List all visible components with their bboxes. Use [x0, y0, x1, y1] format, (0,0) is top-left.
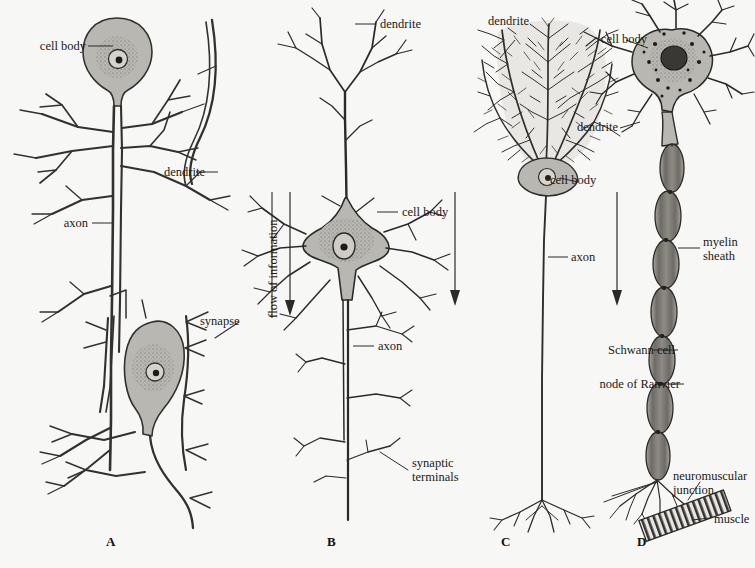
myelin-segment-7 — [646, 432, 670, 480]
label-c-axon: axon — [571, 250, 595, 264]
nucleus-d — [661, 46, 687, 70]
label-a-dendrite: dendrite — [164, 165, 205, 179]
panel-letter-c: C — [501, 534, 510, 550]
neuron-diagram-svg — [0, 0, 755, 568]
label-d-neuromuscular-junction: neuromuscular junction — [673, 469, 747, 497]
label-flow-of-information: flow of information — [266, 219, 281, 318]
label-a-cell-body: cell body — [10, 39, 86, 53]
nucleolus-a-upper — [116, 57, 123, 64]
label-b-dendrite: dendrite — [380, 17, 421, 31]
label-d-muscle: muscle — [714, 512, 749, 526]
label-b-cell-body: cell body — [402, 205, 448, 219]
nucleolus-a-lower — [153, 370, 159, 376]
label-b-axon: axon — [378, 339, 402, 353]
myelin-segment-3 — [653, 240, 679, 288]
myelin-segment-2 — [655, 191, 681, 241]
label-a-axon: axon — [24, 216, 88, 230]
label-b-synaptic-line1: synaptic — [412, 456, 454, 470]
axon-b-edge — [343, 300, 344, 440]
label-d-nmj-line1: neuromuscular — [673, 469, 747, 483]
panel-letter-d: D — [637, 534, 646, 550]
label-d-myelin-line2: sheath — [703, 249, 735, 263]
panel-letter-b: B — [327, 534, 336, 550]
myelin-segment-1 — [660, 144, 684, 192]
neuron-figure: cell body dendrite axon synapse A dendri… — [0, 0, 755, 568]
label-d-nmj-line2: junction — [673, 483, 714, 497]
label-d-myelin-sheath: myelin sheath — [703, 235, 738, 263]
nucleolus-b — [340, 243, 347, 250]
label-a-synapse: synapse — [200, 314, 240, 328]
label-b-synaptic-line2: terminals — [412, 470, 459, 484]
label-c-dendrite: dendrite — [488, 14, 529, 28]
panel-letter-a: A — [106, 534, 115, 550]
label-d-cell-body: cell body — [575, 32, 647, 46]
myelin-segment-4 — [651, 287, 677, 337]
label-b-synaptic-terminals: synaptic terminals — [412, 456, 459, 484]
label-c-cell-body: cell body — [550, 173, 596, 187]
label-d-schwann-cell: Schwann cell — [563, 343, 675, 357]
label-d-dendrite: dendrite — [552, 120, 618, 134]
label-d-node-of-ranvier: node of Ranvier — [546, 377, 680, 391]
label-d-myelin-line1: myelin — [703, 235, 738, 249]
